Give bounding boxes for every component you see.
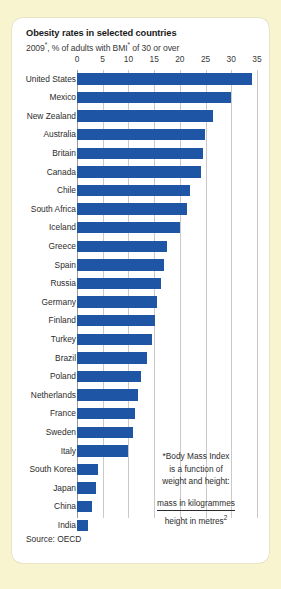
chart-row: Germany: [12, 293, 269, 312]
subtitle-suffix: of 30 or over: [130, 43, 179, 53]
bar-india: [77, 520, 88, 531]
category-label-greece: Greece: [49, 241, 76, 251]
category-label-canada: Canada: [47, 167, 76, 177]
bmi-formula: mass in kilogrammes height in metres2: [157, 497, 235, 527]
chart-row: New Zealand: [12, 107, 269, 126]
x-tick-0: 0: [75, 54, 80, 64]
category-label-britain: Britain: [52, 148, 76, 158]
bar-brazil: [77, 352, 147, 363]
footnote-line-3: weight and height:: [134, 475, 258, 488]
bmi-footnote: *Body Mass Index is a function of weight…: [134, 450, 258, 527]
chart-title: Obesity rates in selected countries: [26, 28, 176, 38]
category-label-south-korea: South Korea: [29, 464, 76, 474]
source-note: Source: OECD: [26, 534, 81, 544]
category-label-spain: Spain: [55, 260, 76, 270]
x-tick-35: 35: [252, 54, 261, 64]
chart-row: South Africa: [12, 200, 269, 219]
chart-row: Russia: [12, 275, 269, 294]
chart-subtitle: 2009*, % of adults with BMI* of 30 or ov…: [26, 41, 179, 53]
chart-row: France: [12, 405, 269, 424]
x-tick-15: 15: [149, 54, 158, 64]
chart-row: Chile: [12, 182, 269, 201]
category-label-china: China: [54, 501, 76, 511]
category-label-chile: Chile: [57, 185, 76, 195]
bar-russia: [77, 278, 161, 289]
chart-row: Greece: [12, 237, 269, 256]
footnote-line-2: is a function of: [134, 463, 258, 476]
footnote-line-1: *Body Mass Index: [134, 450, 258, 463]
bar-new-zealand: [77, 110, 213, 121]
chart-row: Australia: [12, 126, 269, 145]
x-tick-20: 20: [175, 54, 184, 64]
bar-iceland: [77, 222, 180, 233]
category-label-germany: Germany: [42, 297, 76, 307]
x-tick-10: 10: [124, 54, 133, 64]
category-label-japan: Japan: [53, 483, 76, 493]
subtitle-middle: , % of adults with BMI: [47, 43, 127, 53]
x-tick-25: 25: [201, 54, 210, 64]
x-axis-tick-labels: 05101520253035: [12, 54, 269, 70]
chart-row: Netherlands: [12, 386, 269, 405]
bar-mexico: [77, 92, 231, 103]
formula-denominator: height in metres2: [157, 511, 235, 527]
chart-row: United States: [12, 70, 269, 89]
x-tick-30: 30: [227, 54, 236, 64]
formula-numerator: mass in kilogrammes: [157, 497, 235, 511]
category-label-poland: Poland: [50, 371, 76, 381]
chart-row: Britain: [12, 144, 269, 163]
formula-denominator-exponent: 2: [224, 514, 228, 521]
chart-card: Obesity rates in selected countries 2009…: [12, 18, 269, 563]
chart-row: Iceland: [12, 219, 269, 238]
bar-germany: [77, 296, 157, 307]
bar-netherlands: [77, 389, 138, 400]
category-label-iceland: Iceland: [49, 222, 76, 232]
bar-france: [77, 408, 135, 419]
bar-sweden: [77, 427, 133, 438]
category-label-italy: Italy: [61, 446, 76, 456]
bar-australia: [77, 129, 205, 140]
x-tick-5: 5: [100, 54, 105, 64]
bar-chile: [77, 185, 190, 196]
bar-finland: [77, 315, 155, 326]
chart-row: Finland: [12, 312, 269, 331]
bar-south-korea: [77, 464, 98, 475]
bar-turkey: [77, 334, 152, 345]
chart-row: Sweden: [12, 423, 269, 442]
category-label-sweden: Sweden: [46, 427, 76, 437]
category-label-united-states: United States: [26, 74, 76, 84]
bar-poland: [77, 371, 141, 382]
chart-row: Spain: [12, 256, 269, 275]
bar-china: [77, 501, 92, 512]
category-label-finland: Finland: [49, 315, 76, 325]
category-label-russia: Russia: [50, 278, 76, 288]
category-label-netherlands: Netherlands: [31, 390, 76, 400]
category-label-brazil: Brazil: [55, 353, 76, 363]
bar-japan: [77, 482, 96, 493]
category-label-turkey: Turkey: [51, 334, 76, 344]
bar-canada: [77, 166, 201, 177]
category-label-australia: Australia: [43, 129, 76, 139]
category-label-india: India: [58, 520, 76, 530]
bar-greece: [77, 241, 167, 252]
formula-denominator-text: height in metres: [165, 516, 224, 526]
bar-spain: [77, 259, 164, 270]
infographic-page: Obesity rates in selected countries 2009…: [0, 0, 281, 589]
chart-row: Canada: [12, 163, 269, 182]
category-label-new-zealand: New Zealand: [27, 111, 76, 121]
bar-south-africa: [77, 203, 187, 214]
bar-britain: [77, 148, 203, 159]
category-label-france: France: [50, 408, 76, 418]
chart-row: Brazil: [12, 349, 269, 368]
bar-united-states: [77, 73, 252, 84]
chart-row: Poland: [12, 368, 269, 387]
category-label-south-africa: South Africa: [31, 204, 76, 214]
category-label-mexico: Mexico: [49, 92, 76, 102]
bar-italy: [77, 445, 128, 456]
subtitle-year: 2009: [26, 43, 45, 53]
chart-row: Turkey: [12, 330, 269, 349]
chart-row: Mexico: [12, 89, 269, 108]
